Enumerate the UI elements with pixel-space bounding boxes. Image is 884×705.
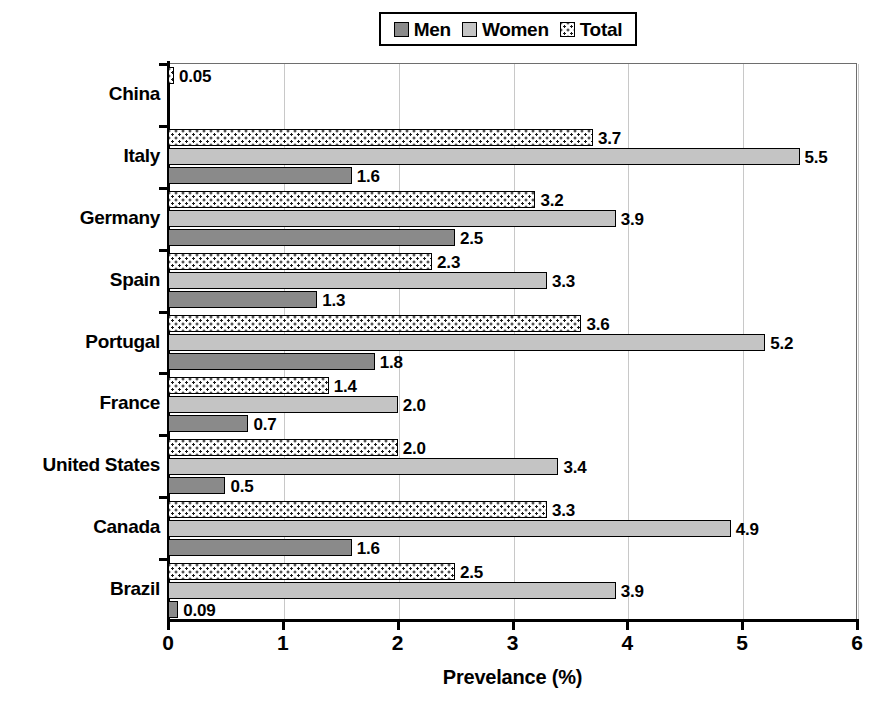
bar-france-women — [168, 396, 398, 413]
category-label-brazil: Brazil — [2, 579, 160, 598]
bar-brazil-total — [168, 563, 455, 580]
x-axis-tick-2 — [397, 620, 400, 630]
gridline-6 — [858, 64, 859, 619]
bar-value-label: 5.5 — [805, 149, 828, 166]
bar-value-label: 4.9 — [736, 521, 759, 538]
bar-value-label: 0.5 — [230, 478, 253, 495]
bar-value-label: 3.9 — [621, 583, 644, 600]
x-axis-tick-3 — [512, 620, 515, 630]
bar-value-label: 1.6 — [357, 168, 380, 185]
x-axis-tick-label-4: 4 — [607, 632, 647, 653]
bar-canada-total — [168, 501, 547, 518]
bar-value-label: 2.0 — [403, 440, 426, 457]
legend-item-total: Total — [560, 20, 622, 39]
x-axis-tick-label-5: 5 — [722, 632, 762, 653]
total-swatch-icon — [560, 22, 575, 37]
x-axis-tick-6 — [856, 620, 859, 630]
women-swatch-icon — [462, 22, 477, 37]
bar-canada-women — [168, 520, 731, 537]
x-axis-tick-label-1: 1 — [263, 632, 303, 653]
bar-germany-total — [168, 191, 535, 208]
bar-value-label: 0.09 — [183, 602, 215, 619]
x-axis-tick-label-2: 2 — [378, 632, 418, 653]
x-axis-tick-5 — [741, 620, 744, 630]
category-label-germany: Germany — [2, 208, 160, 227]
bar-value-label: 5.2 — [770, 335, 793, 352]
category-label-united-states: United States — [2, 455, 160, 474]
bar-value-label: 3.7 — [598, 130, 621, 147]
bar-brazil-men — [168, 601, 178, 618]
chart-legend: Men Women Total — [379, 12, 637, 46]
bar-value-label: 1.6 — [357, 540, 380, 557]
category-axis-labels: ChinaItalyGermanySpainPortugalFranceUnit… — [0, 0, 160, 705]
bar-france-total — [168, 377, 329, 394]
bar-germany-women — [168, 210, 616, 227]
bar-value-label: 3.6 — [586, 316, 609, 333]
bar-spain-women — [168, 272, 547, 289]
legend-item-women: Women — [462, 20, 549, 39]
bar-brazil-women — [168, 582, 616, 599]
y-axis-tick — [159, 249, 169, 252]
y-axis-tick — [159, 496, 169, 499]
bar-value-label: 2.3 — [437, 254, 460, 271]
bar-portugal-total — [168, 315, 581, 332]
bar-portugal-men — [168, 353, 375, 370]
bar-value-label: 2.5 — [460, 230, 483, 247]
bar-value-label: 0.05 — [179, 68, 211, 85]
x-axis-tick-label-6: 6 — [837, 632, 877, 653]
men-swatch-icon — [394, 22, 409, 37]
bar-italy-men — [168, 167, 352, 184]
bar-value-label: 3.3 — [552, 273, 575, 290]
x-axis-tick-label-0: 0 — [148, 632, 188, 653]
bar-spain-total — [168, 253, 432, 270]
y-axis-tick — [159, 372, 169, 375]
x-axis-tick-0 — [167, 620, 170, 630]
category-label-spain: Spain — [2, 270, 160, 289]
bar-italy-total — [168, 129, 593, 146]
bar-united-states-total — [168, 439, 398, 456]
bar-value-label: 1.8 — [380, 354, 403, 371]
legend-item-men: Men — [394, 20, 451, 39]
x-axis-title: Prevelance (%) — [168, 666, 857, 689]
legend-label-women: Women — [482, 20, 549, 39]
legend-label-men: Men — [414, 20, 451, 39]
bar-value-label: 2.5 — [460, 564, 483, 581]
bar-value-label: 3.2 — [540, 192, 563, 209]
y-axis-tick — [159, 434, 169, 437]
bar-portugal-women — [168, 334, 765, 351]
y-axis-tick — [159, 125, 169, 128]
bar-united-states-women — [168, 458, 558, 475]
x-axis-tick-4 — [626, 620, 629, 630]
bar-value-label: 2.0 — [403, 397, 426, 414]
category-label-italy: Italy — [2, 146, 160, 165]
y-axis-tick — [159, 558, 169, 561]
bar-canada-men — [168, 539, 352, 556]
category-label-portugal: Portugal — [2, 332, 160, 351]
bar-value-label: 0.7 — [253, 416, 276, 433]
y-axis-tick — [159, 63, 169, 66]
bar-china-total — [168, 67, 174, 84]
category-label-france: France — [2, 393, 160, 412]
bar-value-label: 1.3 — [322, 292, 345, 309]
bar-united-states-men — [168, 477, 225, 494]
bar-value-label: 1.4 — [334, 378, 357, 395]
y-axis-tick — [159, 311, 169, 314]
bar-france-men — [168, 415, 248, 432]
category-label-canada: Canada — [2, 517, 160, 536]
bar-germany-men — [168, 229, 455, 246]
x-axis-tick-label-3: 3 — [493, 632, 533, 653]
legend-label-total: Total — [580, 20, 622, 39]
bar-spain-men — [168, 291, 317, 308]
x-axis-tick-1 — [282, 620, 285, 630]
bar-chart: Men Women Total 0.053.75.51.63.23.92.52.… — [0, 0, 884, 705]
y-axis-tick — [159, 187, 169, 190]
bar-value-label: 3.4 — [563, 459, 586, 476]
bar-italy-women — [168, 148, 800, 165]
bar-value-label: 3.3 — [552, 502, 575, 519]
bar-value-label: 3.9 — [621, 211, 644, 228]
category-label-china: China — [2, 84, 160, 103]
